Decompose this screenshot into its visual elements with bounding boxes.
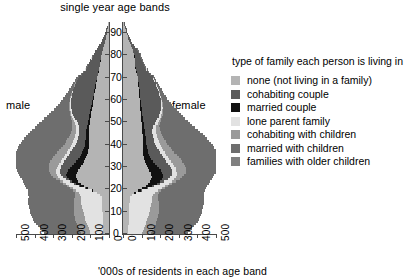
x-tick-label: 100 bbox=[94, 224, 105, 241]
pyramid-segment bbox=[148, 71, 149, 74]
x-tick-mark bbox=[197, 234, 198, 238]
x-axis-title: '000s of residents in each age band bbox=[98, 265, 267, 277]
legend-item[interactable]: none (not living in a family) bbox=[231, 74, 414, 87]
legend-swatch bbox=[231, 76, 240, 85]
x-tick-label: 300 bbox=[57, 224, 68, 241]
x-tick-label: 200 bbox=[76, 224, 87, 241]
x-tick-label: 200 bbox=[164, 224, 175, 241]
legend-title: type of family each person is living in bbox=[232, 55, 414, 67]
legend-item[interactable]: lone parent family bbox=[231, 115, 414, 128]
plot-area: 0102030405060708090 50040030020010000100… bbox=[16, 22, 216, 244]
legend-swatch bbox=[231, 90, 240, 99]
legend-item[interactable]: cohabiting couple bbox=[231, 88, 414, 101]
legend-label: lone parent family bbox=[247, 116, 330, 127]
y-tick-label: 80 bbox=[103, 49, 129, 59]
legend-item[interactable]: married couple bbox=[231, 101, 414, 114]
x-tick-mark bbox=[142, 234, 143, 238]
legend-label: families with older children bbox=[247, 156, 370, 167]
legend-item[interactable]: cohabiting with children bbox=[231, 128, 414, 141]
x-tick-label: 0 bbox=[127, 235, 138, 241]
x-tick-mark bbox=[35, 234, 36, 238]
legend-label: cohabiting couple bbox=[247, 89, 329, 100]
population-pyramid-figure: single year age bands male female 010203… bbox=[0, 0, 414, 280]
legend-swatch bbox=[231, 144, 240, 153]
x-tick-label: 400 bbox=[201, 224, 212, 241]
x-tick-label: 500 bbox=[220, 224, 231, 241]
y-tick-label: 70 bbox=[103, 72, 129, 82]
x-tick-label: 100 bbox=[146, 224, 157, 241]
legend-label: married couple bbox=[247, 102, 316, 113]
y-tick-label: 20 bbox=[103, 183, 129, 193]
legend-label: married with children bbox=[247, 143, 344, 154]
legend-items: none (not living in a family)cohabiting … bbox=[231, 74, 414, 168]
x-tick-mark bbox=[216, 234, 217, 238]
x-tick-mark bbox=[160, 234, 161, 238]
y-tick-label: 90 bbox=[103, 27, 129, 37]
x-tick-mark bbox=[72, 234, 73, 238]
pyramid-segment bbox=[147, 68, 148, 71]
legend: type of family each person is living in … bbox=[231, 55, 414, 169]
x-tick-label: 300 bbox=[183, 224, 194, 241]
pyramid-row bbox=[123, 22, 124, 24]
x-tick-mark bbox=[16, 234, 17, 238]
legend-swatch bbox=[231, 117, 240, 126]
y-tick-label: 60 bbox=[103, 94, 129, 104]
y-tick-label: 40 bbox=[103, 139, 129, 149]
legend-swatch bbox=[231, 103, 240, 112]
chart-title: single year age bands bbox=[30, 1, 200, 14]
legend-swatch bbox=[231, 157, 240, 166]
x-tick-mark bbox=[53, 234, 54, 238]
x-tick-mark bbox=[109, 234, 110, 238]
y-tick-label: 50 bbox=[103, 116, 129, 126]
legend-label: none (not living in a family) bbox=[247, 75, 372, 86]
x-tick-mark bbox=[179, 234, 180, 238]
y-tick-label: 30 bbox=[103, 161, 129, 171]
legend-swatch bbox=[231, 130, 240, 139]
female-panel bbox=[123, 22, 216, 234]
pyramid-segment bbox=[150, 73, 151, 76]
legend-item[interactable]: families with older children bbox=[231, 155, 414, 168]
x-tick-label: 500 bbox=[20, 224, 31, 241]
pyramid-segment bbox=[153, 75, 154, 78]
pyramid-segment bbox=[154, 77, 155, 80]
x-tick-mark bbox=[90, 234, 91, 238]
legend-label: cohabiting with children bbox=[247, 129, 356, 140]
legend-item[interactable]: married with children bbox=[231, 142, 414, 155]
pyramid-segment bbox=[145, 66, 146, 69]
y-tick-label: 10 bbox=[103, 206, 129, 216]
pyramid-segment bbox=[156, 82, 158, 85]
male-panel bbox=[16, 22, 109, 234]
x-tick-label: 400 bbox=[39, 224, 50, 241]
x-tick-mark bbox=[123, 234, 124, 238]
